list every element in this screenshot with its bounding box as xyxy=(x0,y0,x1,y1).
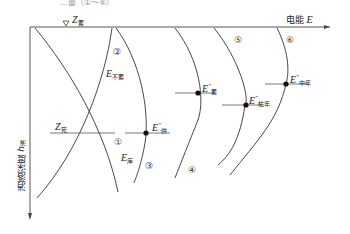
y-axis-label: 消落深度 h消 xyxy=(14,140,28,191)
curve-5 xyxy=(214,28,246,165)
point-label-dry-year: E″枯年 xyxy=(249,93,270,109)
e-not-store-label: E不蓄 xyxy=(106,69,124,82)
curve-number-2: ② xyxy=(113,48,121,57)
point-supply xyxy=(143,130,148,135)
curve-number-5: ⑤ xyxy=(234,36,242,45)
curve-4 xyxy=(175,28,201,178)
curve-number-4: ④ xyxy=(188,166,196,175)
point-label-store: E″蓄 xyxy=(202,81,217,97)
storage-level-label: Z蓄 xyxy=(72,15,84,28)
x-axis-label: 电能 E xyxy=(286,15,313,25)
water-level-triangle-icon xyxy=(63,21,69,26)
y-axis-arrow-icon xyxy=(28,213,32,220)
curve-number-6: ⑥ xyxy=(286,36,294,45)
curve-2 xyxy=(37,28,112,198)
point-dry-year xyxy=(243,102,248,107)
point-label-mid-year: E″中年 xyxy=(290,72,311,88)
diagram-canvas xyxy=(0,0,350,234)
curve-number-1: ① xyxy=(114,138,122,147)
point-label-supply: E″供 xyxy=(152,120,167,136)
point-store xyxy=(195,90,200,95)
x-axis-arrow-icon xyxy=(324,25,330,29)
dead-level-label: Z死 xyxy=(55,122,67,135)
curve-1 xyxy=(35,28,118,192)
curve-number-3: ③ xyxy=(145,162,153,171)
e-store-label: E库 xyxy=(121,153,133,166)
point-mid-year xyxy=(283,81,288,86)
